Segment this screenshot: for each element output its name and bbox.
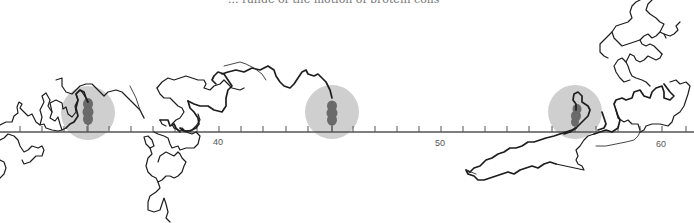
- axis-label-40: 40: [213, 137, 223, 147]
- axis-label-50: 50: [435, 138, 445, 148]
- axis-label-60: 60: [656, 139, 666, 149]
- polymer-chain-middle: [130, 62, 332, 222]
- polymer-diffusion-diagram: 40 50 60: [0, 0, 694, 223]
